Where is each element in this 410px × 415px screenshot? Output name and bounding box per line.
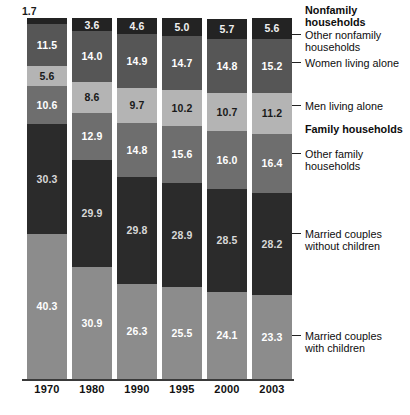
segment-value-label: 15.2 [262,61,283,72]
segment-value-label: 9.7 [130,100,145,111]
x-axis-tick-2003: 2003 [252,383,292,395]
legend-leader-line [292,62,301,63]
segment-1990-married-couples-without-children[interactable]: 29.8 [117,177,157,285]
segment-value-label: 16.0 [217,155,238,166]
segment-2003-men-living-alone[interactable]: 11.2 [252,93,292,133]
legend-leader-line [292,34,301,35]
segment-1995-married-couples-without-children[interactable]: 28.9 [162,183,202,287]
segment-1990-married-couples-with-children[interactable]: 26.3 [117,284,157,379]
segment-1980-married-couples-with-children[interactable]: 30.9 [72,267,112,379]
float-value-label-1970-other-nonfamily: 1.7 [22,6,37,17]
segment-1980-men-living-alone[interactable]: 8.6 [72,82,112,113]
segment-value-label: 16.4 [262,158,283,169]
segment-value-label: 4.6 [130,21,145,32]
segment-value-label: 29.8 [127,225,148,236]
segment-1980-other-nonfamily-households[interactable]: 3.6 [72,18,112,31]
segment-value-label: 3.6 [85,20,100,31]
segment-2000-men-living-alone[interactable]: 10.7 [207,93,247,132]
segment-value-label: 23.3 [262,332,283,343]
segment-1990-women-living-alone[interactable]: 14.9 [117,34,157,88]
segment-2000-other-family-households[interactable]: 16.0 [207,131,247,189]
legend-label-line2: households [305,16,409,28]
segment-2003-married-couples-with-children[interactable]: 23.3 [252,295,292,379]
x-axis-line [22,379,294,381]
legend-label-line1: Nonfamily [305,4,409,16]
segment-2000-women-living-alone[interactable]: 14.8 [207,39,247,92]
segment-1995-other-nonfamily-households[interactable]: 5.0 [162,18,202,36]
legend-label-men-living-alone: Men living alone [305,100,409,112]
segment-1995-other-family-households[interactable]: 15.6 [162,126,202,182]
legend-label-line2: households [305,160,409,172]
segment-2003-married-couples-without-children[interactable]: 28.2 [252,193,292,295]
segment-1970-married-couples-with-children[interactable]: 40.3 [27,234,67,379]
segment-value-label: 40.3 [37,301,58,312]
legend-leader-line [292,153,301,154]
segment-value-label: 12.9 [82,131,103,142]
legend-label-family-households: Family households [305,123,409,135]
segment-2003-other-nonfamily-households[interactable]: 5.6 [252,18,292,38]
segment-1980-married-couples-without-children[interactable]: 29.9 [72,160,112,268]
legend-label-married-couples-with-children: Married coupleswith children [305,330,409,355]
stacked-bar-chart: 1.7 11.55.610.630.340.33.614.08.612.929.… [0,0,410,415]
segment-value-label: 5.6 [265,23,280,34]
legend-label-women-living-alone: Women living alone [305,57,409,69]
legend-leader-line [292,233,301,234]
segment-1990-other-family-households[interactable]: 14.8 [117,123,157,176]
bar-1990[interactable]: 4.614.99.714.829.826.3 [117,18,157,379]
segment-1990-other-nonfamily-households[interactable]: 4.6 [117,18,157,35]
legend-label-line1: Married couples [305,228,409,240]
segment-value-label: 14.7 [172,58,193,69]
x-axis-tick-2000: 2000 [207,383,247,395]
bar-1980[interactable]: 3.614.08.612.929.930.9 [72,18,112,379]
segment-2000-other-nonfamily-households[interactable]: 5.7 [207,19,247,40]
segment-1995-men-living-alone[interactable]: 10.2 [162,90,202,127]
legend-label-line1: Men living alone [305,100,409,112]
legend-label-line2: with children [305,342,409,354]
segment-value-label: 11.5 [37,40,57,51]
segment-1980-women-living-alone[interactable]: 14.0 [72,31,112,82]
x-axis-tick-1980: 1980 [72,383,112,395]
plot-area: 11.55.610.630.340.33.614.08.612.929.930.… [27,18,289,379]
x-axis-tick-1995: 1995 [162,383,202,395]
segment-value-label: 10.6 [37,100,58,111]
bar-1995[interactable]: 5.014.710.215.628.925.5 [162,18,202,379]
segment-1980-other-family-households[interactable]: 12.9 [72,113,112,160]
legend-label-line1: Women living alone [305,57,409,69]
segment-2003-other-family-households[interactable]: 16.4 [252,134,292,193]
segment-1990-men-living-alone[interactable]: 9.7 [117,88,157,123]
segment-value-label: 28.2 [262,239,283,250]
segment-1970-married-couples-without-children[interactable]: 30.3 [27,124,67,233]
legend-label-line1: Other nonfamily [305,29,409,41]
segment-1970-women-living-alone[interactable]: 11.5 [27,24,67,66]
segment-value-label: 26.3 [127,326,148,337]
segment-2003-women-living-alone[interactable]: 15.2 [252,39,292,94]
legend-label-line1: Married couples [305,330,409,342]
segment-value-label: 11.2 [262,108,282,119]
segment-value-label: 10.7 [217,107,238,118]
legend-leader-line [292,335,301,336]
segment-value-label: 14.8 [127,145,148,156]
legend-label-other-nonfamily-households: Other nonfamilyhouseholds [305,29,409,54]
legend-label-nonfamily-households: Nonfamilyhouseholds [305,4,409,29]
segment-1995-women-living-alone[interactable]: 14.7 [162,36,202,89]
segment-1970-men-living-alone[interactable]: 5.6 [27,66,67,86]
segment-value-label: 14.9 [127,56,148,67]
segment-value-label: 14.8 [217,61,238,72]
legend-label-line1: Other family [305,148,409,160]
segment-value-label: 8.6 [85,92,100,103]
bar-2003[interactable]: 5.615.211.216.428.223.3 [252,18,292,379]
segment-value-label: 15.6 [172,149,193,160]
segment-value-label: 25.5 [172,328,193,339]
segment-2000-married-couples-with-children[interactable]: 24.1 [207,292,247,379]
bar-2000[interactable]: 5.714.810.716.028.524.1 [207,19,247,379]
segment-value-label: 28.5 [217,235,238,246]
bar-1970[interactable]: 11.55.610.630.340.3 [27,18,67,379]
segment-1970-other-family-households[interactable]: 10.6 [27,86,67,124]
segment-value-label: 5.6 [40,71,55,82]
segment-1995-married-couples-with-children[interactable]: 25.5 [162,287,202,379]
segment-2000-married-couples-without-children[interactable]: 28.5 [207,189,247,292]
segment-value-label: 24.1 [217,330,238,341]
legend-label-other-family-households: Other familyhouseholds [305,148,409,173]
x-axis-tick-1990: 1990 [117,383,157,395]
segment-value-label: 5.0 [175,22,190,33]
